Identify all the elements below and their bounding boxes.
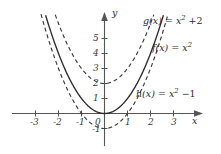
equation-f-lhs: f(x) xyxy=(152,42,168,53)
x-tick-label-2: 2 xyxy=(148,118,154,127)
y-axis xyxy=(101,12,108,146)
equation-g-constant: 2 xyxy=(197,15,203,26)
equation-label-g: g(x) = x2 +2 xyxy=(143,15,203,26)
equation-h-lhs: h(x) xyxy=(136,88,155,99)
equation-f-exponent: 2 xyxy=(188,41,192,49)
equation-label-f: f(x) = x2 xyxy=(152,42,192,53)
parabola-graph-figure: y x -3 -2 -1 0 1 2 3 1 2 3 4 5 -1 g(x) =… xyxy=(0,0,221,154)
x-tick-label-3: 3 xyxy=(171,118,177,127)
x-tick-label--1: -1 xyxy=(76,118,85,127)
equation-g-exponent: 2 xyxy=(181,14,185,22)
x-axis-label: x xyxy=(192,116,197,126)
x-tick-label-1: 1 xyxy=(125,118,131,127)
y-tick-label-2: 2 xyxy=(93,79,99,88)
equation-h-constant: 1 xyxy=(190,88,196,99)
equation-h-equals: = xyxy=(158,88,166,99)
equation-f-equals: = xyxy=(171,42,179,53)
x-tick-label--2: -2 xyxy=(53,118,62,127)
equation-h-exponent: 2 xyxy=(174,87,178,95)
y-axis-label: y xyxy=(112,8,117,18)
equation-g-equals: = xyxy=(165,15,173,26)
y-axis-arrowhead xyxy=(101,12,108,21)
equation-g-operator: + xyxy=(189,15,197,26)
y-tick-label-1: 1 xyxy=(93,94,99,103)
x-tick-label--3: -3 xyxy=(30,118,39,127)
y-tick-label--1: -1 xyxy=(92,125,101,134)
y-tick-label-5: 5 xyxy=(93,34,99,43)
equation-label-h: h(x) = x2 −1 xyxy=(136,88,196,99)
equation-g-lhs: g(x) xyxy=(143,15,162,26)
y-tick-label-3: 3 xyxy=(93,64,99,73)
equation-h-operator: − xyxy=(182,88,190,99)
y-tick-label-4: 4 xyxy=(93,49,99,58)
